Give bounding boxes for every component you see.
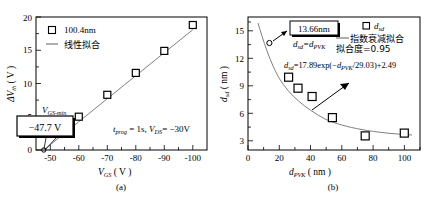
conditions-a-tprog-sub: prog	[115, 128, 127, 135]
conditions-a-vds-sub: DS	[154, 128, 163, 135]
x-tick-label-b-0: 0	[246, 153, 251, 163]
y-tick-label-a-20: 20	[23, 13, 33, 23]
y-tick-label-a-10: 10	[23, 79, 33, 89]
legend-b-item-1-label: 指数衰减拟合	[350, 33, 404, 44]
data-point	[328, 114, 336, 122]
x-ticks-b	[248, 145, 420, 150]
figure-container: 0 5 10 15 20 -50 -60 -70 -80	[0, 0, 430, 199]
x-tick-label-b-40: 40	[306, 153, 316, 163]
data-point	[132, 69, 139, 76]
curve-pointer-arrow	[312, 83, 349, 110]
x-tick-label-a--100: -100	[185, 153, 202, 163]
conditions-a-tprog-val: = 1s,	[129, 124, 147, 134]
x-ticks-a	[50, 145, 193, 150]
data-points-a	[75, 22, 196, 121]
legend-b-item-2-label: 拟合度=0.95	[336, 43, 391, 54]
y-axis-label-b-unit: ( nm )	[219, 66, 230, 89]
x-axis-label-b-unit: ( nm )	[308, 167, 331, 178]
x-tick-label-a--80: -80	[130, 153, 142, 163]
legend-a-item-0-label: 100.4nm	[64, 25, 96, 35]
y-tick-label-b-3: 3	[240, 136, 245, 146]
data-point	[285, 73, 293, 81]
callout-a-label: VGS-min	[42, 105, 66, 116]
x-axis-label-a-unit: ( V )	[114, 167, 132, 178]
panel-b: 3 6 9 12 15 0 20 40 6	[215, 0, 430, 199]
data-point	[104, 91, 111, 98]
callout-a-label-sub: GS-min	[48, 109, 67, 116]
data-point	[189, 22, 196, 29]
y-axis-label-a: ΔVth ( V )	[6, 66, 17, 103]
panel-a-plot: 0 5 10 15 20 -50 -60 -70 -80	[0, 0, 215, 199]
x-tick-label-b-60: 60	[337, 153, 347, 163]
data-point	[161, 47, 168, 54]
svg-text:ΔVth ( V ): ΔVth ( V )	[6, 66, 17, 103]
svg-text:dsd ( nm ): dsd ( nm )	[219, 66, 230, 102]
y-tick-label-b-6: 6	[240, 109, 245, 119]
panel-b-plot: 3 6 9 12 15 0 20 40 6	[215, 0, 430, 199]
x-tick-label-a--50: -50	[44, 153, 56, 163]
data-point	[308, 93, 316, 101]
data-point	[361, 132, 369, 140]
x-tick-label-b-100: 100	[398, 153, 412, 163]
callout-a-value: −47.7 V	[29, 122, 62, 133]
y-tick-label-b-12: 12	[235, 54, 244, 64]
data-point	[75, 113, 82, 120]
panel-b-id: (b)	[328, 182, 339, 192]
callout-b-value: 13.66nm	[298, 24, 330, 34]
legend-a: 100.4nm 线性拟合	[46, 25, 100, 50]
y-axis-label-b: dsd ( nm )	[219, 66, 230, 102]
callout-b-arrow	[273, 31, 287, 41]
x-axis-label-b: dPVK ( nm )	[289, 167, 331, 178]
y-axis-label-a-unit: ( V )	[6, 66, 17, 84]
data-point	[400, 129, 408, 137]
y-ticks-b	[248, 22, 253, 141]
square-marker-icon	[363, 23, 370, 30]
conditions-a-vds-val: = −30V	[162, 124, 190, 134]
x-tick-label-b-20: 20	[275, 153, 285, 163]
svg-text:VGS ( V ): VGS ( V )	[98, 167, 131, 178]
square-marker-icon	[49, 27, 56, 34]
equation-b: dsd=17.89exp(−dPVK/29.03)+2.49	[284, 61, 396, 71]
panel-a-id: (a)	[116, 182, 126, 192]
y-tick-label-a-15: 15	[23, 45, 33, 55]
data-point	[294, 84, 302, 92]
x-axis-label-b-sub: PVK	[293, 171, 307, 178]
legend-b: dsd 指数衰减拟合 拟合度=0.95	[336, 21, 404, 54]
x-tick-label-a--90: -90	[158, 153, 170, 163]
x-tick-label-b-80: 80	[369, 153, 379, 163]
conditions-a-text: tprog = 1s, VDS= −30V	[113, 124, 191, 135]
legend-b-item-0-label: dsd	[374, 21, 385, 32]
x-tick-label-a--60: -60	[73, 153, 85, 163]
callout-b-relation: dsd=dPVK	[293, 39, 326, 50]
data-points-b	[285, 73, 409, 140]
x-tick-label-a--70: -70	[101, 153, 113, 163]
panel-a: 0 5 10 15 20 -50 -60 -70 -80	[0, 0, 215, 199]
x-axis-label-a: VGS ( V )	[98, 167, 131, 178]
legend-a-item-1-label: 线性拟合	[64, 39, 100, 50]
x-axis-label-a-sub: GS	[104, 171, 112, 178]
y-tick-label-b-15: 15	[235, 26, 245, 36]
y-tick-label-a-0: 0	[28, 145, 33, 155]
intersection-marker	[267, 40, 272, 45]
y-tick-label-b-9: 9	[240, 81, 245, 91]
